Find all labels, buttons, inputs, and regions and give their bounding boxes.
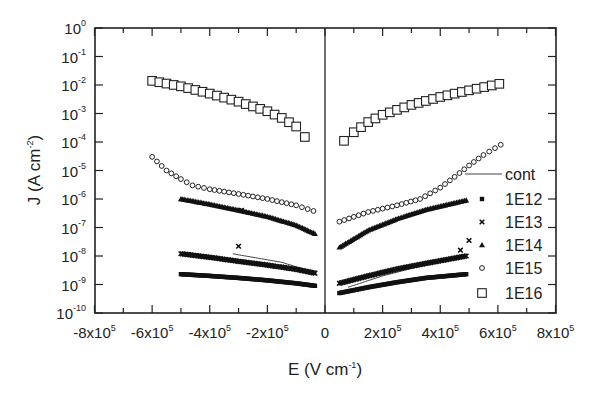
legend-item-cont: cont xyxy=(465,166,536,183)
y-tick-label: 10-3 xyxy=(61,104,86,123)
x-tick-label: -6x105 xyxy=(131,323,174,341)
x-tick-label: -2x105 xyxy=(246,323,289,341)
y-tick-label: 10-6 xyxy=(61,189,86,208)
legend-item-1E14: 1E14 xyxy=(479,237,542,254)
y-tick-labels: 10010-110-210-310-410-510-610-710-810-91… xyxy=(56,18,86,322)
y-tick-label: 10-8 xyxy=(61,246,86,265)
y-tick-label: 10-2 xyxy=(61,75,86,94)
x-tick-label: 4x105 xyxy=(421,323,459,341)
x-axis-title: E (V cm-1) xyxy=(288,360,362,379)
legend-item-1E15: 1E15 xyxy=(480,260,543,277)
series-1E12 xyxy=(179,272,469,295)
legend-item-1E12: 1E12 xyxy=(480,191,543,208)
legend-label: 1E14 xyxy=(505,237,542,254)
legend-label: 1E12 xyxy=(505,191,542,208)
y-tick-label: 10-1 xyxy=(61,47,86,66)
y-tick-label: 10-9 xyxy=(61,275,86,294)
x-tick-label: -8x105 xyxy=(73,323,116,341)
data-series xyxy=(148,77,504,296)
y-tick-label: 10-7 xyxy=(61,218,86,237)
legend-item-1E16: 1E16 xyxy=(478,285,543,302)
legend-label: 1E13 xyxy=(505,214,542,231)
jv-chart: -8x105-6x105-4x105-2x10502x1054x1056x105… xyxy=(0,0,602,394)
series-1E15 xyxy=(150,142,503,224)
legend: cont1E121E131E141E151E16 xyxy=(465,166,542,302)
x-tick-label: -4x105 xyxy=(188,323,231,341)
legend-label: cont xyxy=(505,166,536,183)
series-1E16 xyxy=(148,77,504,146)
legend-item-1E13: 1E13 xyxy=(480,214,543,231)
legend-label: 1E15 xyxy=(505,260,542,277)
y-tick-label: 10-10 xyxy=(56,303,86,322)
y-tick-label: 100 xyxy=(64,18,86,37)
x-tick-label: 2x105 xyxy=(364,323,402,341)
x-tick-label: 0 xyxy=(321,324,329,341)
y-axis-title: J (A cm-2) xyxy=(25,135,44,205)
series-1E14 xyxy=(178,196,469,250)
legend-label: 1E16 xyxy=(505,285,542,302)
y-tick-label: 10-4 xyxy=(61,132,86,151)
x-tick-labels: -8x105-6x105-4x105-2x10502x1054x1056x105… xyxy=(73,323,574,341)
y-tick-label: 10-5 xyxy=(61,161,86,180)
x-tick-label: 6x105 xyxy=(479,323,517,341)
x-tick-label: 8x105 xyxy=(537,323,575,341)
